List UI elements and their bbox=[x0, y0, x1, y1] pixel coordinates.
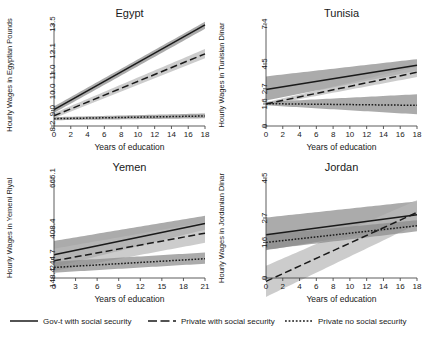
legend-label-1: Gov-t with social security bbox=[43, 317, 131, 326]
x-tick-label: 4 bbox=[85, 130, 90, 139]
x-tick-label: 4 bbox=[297, 130, 302, 139]
x-tick-label: 18 bbox=[413, 282, 422, 291]
y-axis-label: Hourly Wages in Tunisian Dinar bbox=[217, 22, 226, 127]
y-tick-label: 1.6 bbox=[260, 236, 269, 248]
y-axis-label: Hourly Wages in Yemeni Riyal bbox=[5, 178, 14, 279]
x-tick-label: 18 bbox=[201, 130, 210, 139]
x-tick-label: 14 bbox=[167, 130, 176, 139]
y-tick-label: 8.2 bbox=[48, 120, 57, 132]
panel-title: Yemen bbox=[113, 161, 147, 173]
x-tick-label: 10 bbox=[133, 130, 142, 139]
y-axis-label: Hourly Wages in Egyptian Pounds bbox=[5, 18, 14, 132]
chart-yemen: Yemen036912151821148.4244.7403.4665.1Yea… bbox=[0, 158, 212, 310]
chart-tunisia: Tunisia02468101214161801.62.74.57.4Years… bbox=[212, 0, 424, 160]
x-tick-label: 10 bbox=[345, 282, 354, 291]
x-axis-label: Years of education bbox=[94, 142, 164, 152]
x-tick-label: 8 bbox=[119, 130, 124, 139]
legend-item-2: Private with social security bbox=[148, 317, 275, 326]
x-tick-label: 8 bbox=[331, 282, 336, 291]
panel-yemen: Yemen036912151821148.4244.7403.4665.1Yea… bbox=[0, 158, 212, 310]
y-tick-label: 12.1 bbox=[48, 43, 57, 59]
y-tick-label: 148.4 bbox=[48, 267, 57, 288]
x-tick-label: 12 bbox=[150, 130, 159, 139]
x-tick-label: 14 bbox=[379, 130, 388, 139]
x-tick-label: 14 bbox=[379, 282, 388, 291]
x-tick-label: 16 bbox=[396, 282, 405, 291]
series-line-2 bbox=[54, 54, 205, 116]
x-tick-label: 0 bbox=[264, 130, 269, 139]
y-tick-label: 0 bbox=[260, 275, 269, 280]
x-tick-label: 6 bbox=[102, 130, 107, 139]
chart-jordan: Jordan02468101214161801.62.74.5Years of … bbox=[212, 158, 424, 310]
legend-item-1: Gov-t with social security bbox=[10, 317, 131, 326]
x-tick-label: 16 bbox=[184, 130, 193, 139]
y-tick-label: 4.5 bbox=[260, 172, 269, 184]
x-tick-label: 10 bbox=[345, 130, 354, 139]
legend-item-3: Private no social security bbox=[285, 317, 406, 326]
x-tick-label: 8 bbox=[331, 130, 336, 139]
x-axis-label: Years of education bbox=[94, 294, 164, 304]
figure-root: Egypt0246810121416188.29.010.011.012.113… bbox=[0, 0, 424, 340]
y-tick-label: 244.7 bbox=[48, 249, 57, 270]
panel-title: Tunisia bbox=[324, 7, 360, 19]
legend: Gov-t with social securityPrivate with s… bbox=[0, 308, 424, 340]
y-tick-label: 10.0 bbox=[48, 83, 57, 99]
legend-label-3: Private no social security bbox=[318, 317, 406, 326]
x-tick-label: 18 bbox=[413, 130, 422, 139]
y-axis-label: Hourly Wages in Jordanian Dinar bbox=[217, 173, 226, 283]
y-tick-label: 1.6 bbox=[260, 98, 269, 110]
x-axis-label: Years of education bbox=[306, 142, 376, 152]
x-tick-label: 18 bbox=[179, 282, 188, 291]
y-tick-label: 2.7 bbox=[260, 83, 269, 95]
x-tick-label: 21 bbox=[201, 282, 210, 291]
confidence-band-2 bbox=[54, 49, 205, 118]
legend-graphic: Gov-t with social securityPrivate with s… bbox=[0, 308, 424, 340]
x-tick-label: 3 bbox=[73, 282, 78, 291]
x-tick-label: 16 bbox=[396, 130, 405, 139]
x-tick-label: 9 bbox=[116, 282, 121, 291]
y-tick-label: 13.5 bbox=[48, 16, 57, 32]
x-tick-label: 2 bbox=[281, 130, 286, 139]
x-tick-label: 6 bbox=[314, 282, 319, 291]
y-tick-label: 403.4 bbox=[48, 218, 57, 239]
x-tick-label: 12 bbox=[362, 130, 371, 139]
chart-egypt: Egypt0246810121416188.29.010.011.012.113… bbox=[0, 0, 212, 160]
y-tick-label: 9.0 bbox=[48, 104, 57, 116]
series-line-1 bbox=[54, 25, 205, 110]
x-tick-label: 2 bbox=[69, 130, 74, 139]
panel-jordan: Jordan02468101214161801.62.74.5Years of … bbox=[212, 158, 424, 310]
y-tick-label: 7.4 bbox=[260, 18, 269, 30]
panel-tunisia: Tunisia02468101214161801.62.74.57.4Years… bbox=[212, 0, 424, 160]
x-tick-label: 6 bbox=[95, 282, 100, 291]
y-tick-label: 11.0 bbox=[48, 64, 57, 80]
panel-title: Egypt bbox=[115, 7, 143, 19]
panel-title: Jordan bbox=[325, 161, 359, 173]
x-tick-label: 4 bbox=[297, 282, 302, 291]
panel-egypt: Egypt0246810121416188.29.010.011.012.113… bbox=[0, 0, 212, 160]
y-tick-label: 2.7 bbox=[260, 212, 269, 224]
x-tick-label: 12 bbox=[136, 282, 145, 291]
legend-label-2: Private with social security bbox=[181, 317, 275, 326]
x-tick-label: 2 bbox=[281, 282, 286, 291]
y-tick-label: 4.5 bbox=[260, 58, 269, 70]
y-tick-label: 0 bbox=[260, 123, 269, 128]
x-axis-label: Years of education bbox=[306, 294, 376, 304]
x-tick-label: 6 bbox=[314, 130, 319, 139]
x-tick-label: 12 bbox=[362, 282, 371, 291]
y-tick-label: 665.1 bbox=[48, 167, 57, 188]
x-tick-label: 15 bbox=[157, 282, 166, 291]
x-tick-label: 0 bbox=[264, 282, 269, 291]
